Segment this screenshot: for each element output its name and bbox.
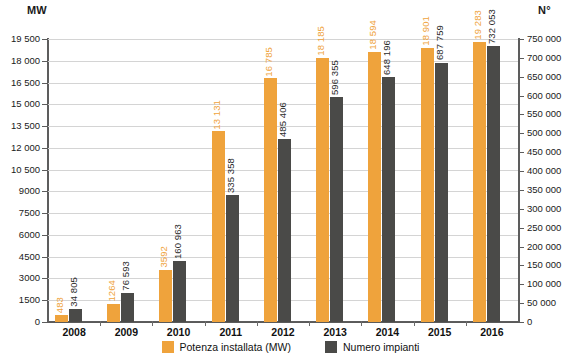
bar-group: 18 185596 355 [309,39,361,322]
left-tick-label: 13 500 [0,120,40,131]
legend-label: Numero impianti [343,341,419,353]
bar-potenza-installata [368,52,381,322]
right-tick-label: 550 000 [527,108,561,119]
bar-value-label-impianti: 485 406 [277,102,288,137]
bar-numero-impianti [487,46,500,322]
bar-numero-impianti [226,195,239,322]
bar-value-label-potenza: 18 594 [367,20,378,50]
right-tick-label: 600 000 [527,90,561,101]
x-tick-mark [257,321,258,326]
x-tick-mark [414,321,415,326]
x-axis-label: 2013 [309,326,361,338]
bar-numero-impianti [121,293,134,322]
right-axis-header: N° [538,4,551,16]
bar-potenza-installata [316,58,329,322]
right-tick-label: 100 000 [527,278,561,289]
right-tick-label: 350 000 [527,184,561,195]
x-axis-label: 2014 [361,326,413,338]
bar-value-label-potenza: 3592 [158,246,169,268]
bar-value-label-impianti: 76 593 [120,261,131,291]
bar-group: 3592160 963 [152,39,204,322]
left-tick-label: 15 000 [0,98,40,109]
left-tick-label: 7500 [0,207,40,218]
bar-group: 18 901687 759 [414,39,466,322]
right-tick-label: 650 000 [527,71,561,82]
left-tick-label: 4500 [0,251,40,262]
left-tick-label: 12 000 [0,142,40,153]
right-tick-label: 750 000 [527,33,561,44]
left-tick-label: 19 500 [0,33,40,44]
bar-value-label-impianti: 335 358 [225,158,236,193]
bar-value-label-impianti: 160 963 [172,224,183,259]
right-tick-label: 450 000 [527,146,561,157]
bar-group: 13 131335 358 [205,39,257,322]
x-tick-mark [205,321,206,326]
legend-item[interactable]: Potenza installata (MW) [162,341,291,353]
bar-chart: MW N° 015003000450060007500900010 50012 … [0,0,581,359]
bar-value-label-potenza: 19 283 [472,10,483,40]
right-tick-label: 150 000 [527,259,561,270]
bar-value-label-impianti: 648 196 [381,40,392,75]
legend-swatch [325,341,337,353]
right-tick-label: 200 000 [527,241,561,252]
x-tick-mark [309,321,310,326]
right-tick-label: 700 000 [527,52,561,63]
x-axis-label: 2009 [100,326,152,338]
legend-item[interactable]: Numero impianti [325,341,419,353]
x-tick-mark [361,321,362,326]
left-tick-label: 3000 [0,272,40,283]
bar-value-label-potenza: 16 785 [263,47,274,77]
bar-group: 126476 593 [100,39,152,322]
bar-value-label-impianti: 596 355 [329,60,340,95]
left-tick-label: 6000 [0,229,40,240]
bar-value-label-impianti: 732 053 [486,9,497,44]
bar-group: 18 594648 196 [361,39,413,322]
gridline [48,322,518,323]
bar-value-label-potenza: 13 131 [211,100,222,130]
x-axis-label: 2011 [205,326,257,338]
chart-legend: Potenza installata (MW)Numero impianti [0,341,581,353]
right-axis-line [518,38,520,323]
x-tick-mark [152,321,153,326]
bar-value-label-impianti: 34 805 [68,277,79,307]
bar-value-label-potenza: 18 185 [315,26,326,56]
legend-label: Potenza installata (MW) [180,341,291,353]
bar-numero-impianti [69,309,82,322]
bar-numero-impianti [382,77,395,322]
right-tick-label: 0 [527,316,532,327]
right-tick-label: 50 000 [527,297,556,308]
bar-potenza-installata [421,48,434,322]
bar-potenza-installata [55,315,68,322]
bar-numero-impianti [435,63,448,323]
bar-numero-impianti [278,139,291,322]
left-tick-label: 9000 [0,185,40,196]
x-tick-mark [466,321,467,326]
plot-area: 48334 805126476 5933592160 96313 131335 … [48,39,518,322]
bar-potenza-installata [107,304,120,322]
bar-potenza-installata [473,42,486,322]
x-axis-label: 2008 [48,326,100,338]
bar-group: 19 283732 053 [466,39,518,322]
bar-potenza-installata [159,270,172,322]
bar-group: 16 785485 406 [257,39,309,322]
x-axis-label: 2016 [466,326,518,338]
x-axis-label: 2010 [153,326,205,338]
left-tick-label: 16 500 [0,77,40,88]
left-axis-header: MW [27,4,47,16]
bar-numero-impianti [330,97,343,322]
bar-value-label-potenza: 1264 [106,280,117,302]
right-tick-label: 500 000 [527,127,561,138]
left-tick-label: 1500 [0,294,40,305]
bar-potenza-installata [212,131,225,322]
x-axis-label: 2012 [257,326,309,338]
bar-numero-impianti [173,261,186,322]
right-tick-label: 300 000 [527,203,561,214]
x-axis-label: 2015 [414,326,466,338]
left-tick-label: 10 500 [0,164,40,175]
left-tick-label: 0 [0,316,40,327]
right-tick-label: 250 000 [527,222,561,233]
left-tick-label: 18 000 [0,55,40,66]
legend-swatch [162,341,174,353]
right-tick-label: 400 000 [527,165,561,176]
bar-value-label-potenza: 483 [54,297,65,313]
